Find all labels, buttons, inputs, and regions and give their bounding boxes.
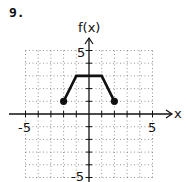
x-axis-label: x xyxy=(174,106,182,121)
axes xyxy=(9,38,172,182)
function-graph: f(x) x -5 5 5 -5 xyxy=(0,0,186,182)
y-axis-label: f(x) xyxy=(78,20,100,35)
x-tick-neg5: -5 xyxy=(18,120,31,135)
y-tick-5: 5 xyxy=(77,45,85,60)
y-tick-neg5: -5 xyxy=(71,169,84,182)
x-tick-5: 5 xyxy=(148,120,156,135)
